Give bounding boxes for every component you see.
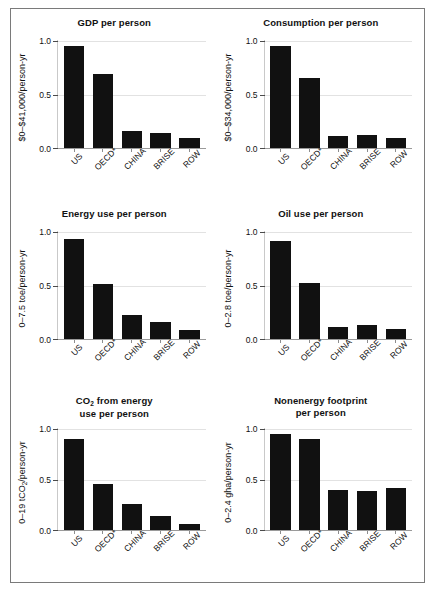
bar-slot xyxy=(325,41,351,148)
x-tick-mark xyxy=(338,531,339,534)
x-tick-mark xyxy=(74,149,75,152)
x-label-slot: OECD* xyxy=(90,345,116,379)
x-label-slot: ROW xyxy=(383,345,409,379)
bar-series xyxy=(57,41,206,148)
y-axis-title: 0–19 tCO2/person-yr xyxy=(15,429,29,535)
y-axis-title-text: 0–2.4 gha/person-yr xyxy=(224,442,233,523)
y-tick-label-0: 0.0 xyxy=(39,527,51,536)
bar-series xyxy=(57,429,206,530)
y-tick-label-0: 0.0 xyxy=(39,336,51,345)
x-axis-label-us: US xyxy=(70,534,85,549)
bar-slot xyxy=(119,41,145,148)
y-axis-title: 0–7.5 toe/person-yr xyxy=(15,232,29,344)
y-tick-label-50: 0.5 xyxy=(39,91,51,100)
bar-slot xyxy=(354,41,380,148)
x-tick-mark xyxy=(160,149,161,152)
y-tick-label-100: 1.0 xyxy=(246,228,258,237)
bar-oecd xyxy=(93,484,113,530)
x-label-slot: CHINA xyxy=(325,345,351,379)
x-label-slot: US xyxy=(61,154,87,188)
panel-title-line1: Nonenergy footprint xyxy=(274,395,367,406)
bar-slot xyxy=(354,429,380,530)
x-tick-mark xyxy=(189,531,190,534)
x-label-slot: US xyxy=(61,536,87,570)
x-tick-mark xyxy=(102,340,103,343)
x-axis-label-us: US xyxy=(276,534,291,549)
bar-row xyxy=(386,329,406,339)
bar-china xyxy=(122,504,142,530)
bar-oecd xyxy=(299,283,319,339)
x-label-slot: BRISE xyxy=(147,154,173,188)
y-axis-title: $0–$34,000/person-yr xyxy=(222,41,236,153)
bar-slot xyxy=(296,429,322,530)
bar-series xyxy=(264,232,413,339)
y-tick-label-50: 0.5 xyxy=(39,476,51,485)
panel-title-line2: use per person xyxy=(79,408,149,419)
x-label-slot: BRISE xyxy=(147,536,173,570)
panel-nonenergy-footprint-per-person: Nonenergy footprintper person 0–2.4 gha/… xyxy=(218,391,425,582)
x-label-slot: US xyxy=(268,536,294,570)
bar-oecd xyxy=(299,439,319,530)
panel-title-co2-pre: CO xyxy=(76,395,90,406)
x-label-slot: OECD* xyxy=(90,154,116,188)
x-label-slot: CHINA xyxy=(325,536,351,570)
y-axis-title: 0–2.4 gha/person-yr xyxy=(222,429,236,535)
x-tick-mark xyxy=(74,531,75,534)
plot-area: 0.0 0.5 1.0 xyxy=(57,429,206,531)
bar-us xyxy=(64,439,84,530)
plot-area: 0.0 0.5 1.0 xyxy=(264,232,413,340)
panel-co2-from-energy-use-per-person: CO2 from energyuse per person 0–19 tCO2/… xyxy=(11,391,218,582)
panel-grid: GDP per person $0–$41,000/person-yr 0.0 … xyxy=(11,9,424,582)
bar-slot xyxy=(147,41,173,148)
bar-series xyxy=(264,41,413,148)
x-tick-mark xyxy=(160,531,161,534)
x-axis-labels: USOECD*CHINABRISEROW xyxy=(264,154,413,188)
bar-slot xyxy=(90,41,116,148)
x-label-slot: ROW xyxy=(176,154,202,188)
x-tick-mark xyxy=(367,531,368,534)
y-axis-title-text: 0–19 tCO2/person-yr xyxy=(18,441,27,524)
bar-row xyxy=(179,330,199,339)
panel-title: Consumption per person xyxy=(218,17,425,29)
x-label-slot: ROW xyxy=(383,154,409,188)
y-axis-title-post: /person-yr xyxy=(17,441,27,482)
panel-title: CO2 from energyuse per person xyxy=(11,395,218,419)
y-tick-label-50: 0.5 xyxy=(246,91,258,100)
bar-china xyxy=(328,490,348,530)
x-tick-mark xyxy=(367,340,368,343)
y-tick-label-0: 0.0 xyxy=(246,527,258,536)
y-tick-label-50: 0.5 xyxy=(246,282,258,291)
x-axis-label-us: US xyxy=(70,152,85,167)
x-tick-slot xyxy=(61,340,87,344)
bar-slot xyxy=(90,429,116,530)
bar-slot xyxy=(61,429,87,530)
y-tick-label-0: 0.0 xyxy=(246,145,258,154)
bar-brise xyxy=(357,491,377,530)
x-tick-mark xyxy=(189,340,190,343)
x-label-slot: US xyxy=(268,154,294,188)
bar-slot xyxy=(354,232,380,339)
x-label-slot: ROW xyxy=(176,536,202,570)
bar-slot xyxy=(90,232,116,339)
x-label-slot: CHINA xyxy=(119,154,145,188)
bar-slot xyxy=(268,232,294,339)
bar-slot xyxy=(325,232,351,339)
x-tick-mark xyxy=(395,340,396,343)
y-axis-title-pre: 0–19 tCO xyxy=(17,485,27,524)
x-axis-labels: USOECD*CHINABRISEROW xyxy=(264,345,413,379)
x-tick-mark xyxy=(309,149,310,152)
x-label-slot: BRISE xyxy=(147,345,173,379)
plot-area: 0.0 0.5 1.0 xyxy=(57,232,206,340)
x-label-slot: BRISE xyxy=(354,345,380,379)
panel-title: Oil use per person xyxy=(218,208,425,220)
x-label-slot: ROW xyxy=(383,536,409,570)
bar-us xyxy=(64,239,84,339)
bar-slot xyxy=(383,429,409,530)
y-axis-title-subscript: 2 xyxy=(21,481,28,485)
panel-oil-use-per-person: Oil use per person 0–2.8 toe/person-yr 0… xyxy=(218,200,425,391)
x-tick-slot xyxy=(268,340,294,344)
x-tick-mark xyxy=(131,531,132,534)
figure-frame: GDP per person $0–$41,000/person-yr 0.0 … xyxy=(10,8,425,583)
panel-title: Nonenergy footprintper person xyxy=(218,395,425,418)
bar-slot xyxy=(296,41,322,148)
